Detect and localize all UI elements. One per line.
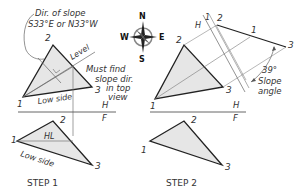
step2-front-triangle [150, 121, 222, 165]
step1-front-label-3: 3 [95, 161, 101, 171]
step2-top-triangle [155, 45, 223, 99]
step2-title: STEP 2 [166, 178, 197, 188]
step1-fold-f: F [102, 113, 107, 123]
descriptive-geometry-diagram: 2 1 3 Low side Level Dir. of slope S33°E… [0, 0, 301, 189]
slope-angle-label-2: angle [258, 86, 282, 96]
step2-front-label-2: 2 [191, 115, 197, 125]
slope-angle-value: 39° [262, 65, 277, 75]
arc-arrow-top [272, 46, 276, 51]
compass-rose: N S W E [120, 12, 164, 64]
step1-group: 2 1 3 Low side Level Dir. of slope S33°E… [11, 8, 134, 188]
note-direction-line2: S33°E or N33°W [28, 19, 98, 29]
step1-fold-h: H [102, 100, 109, 110]
compass-n-label: N [139, 12, 146, 21]
hl-label: HL [44, 132, 54, 141]
step2-fold-f: F [233, 113, 238, 123]
note-direction-line1: Dir. of slope [35, 8, 86, 18]
step2-top-label-2: 2 [176, 35, 182, 45]
low-side-bottom-label: Low side [19, 149, 55, 168]
step1-top-label-2: 2 [45, 33, 51, 43]
step1-title: STEP 1 [27, 178, 58, 188]
aux-fold-1: 1 [205, 13, 210, 22]
edge-label-2: 2 [217, 13, 223, 23]
step2-top-label-1: 1 [150, 101, 156, 111]
step1-front-label-2: 2 [60, 115, 66, 125]
edge-label-3: 3 [288, 40, 294, 50]
note-must-line4: view [108, 92, 128, 102]
level-label: Level [68, 42, 91, 61]
aux-fold-h: H [195, 21, 201, 30]
step1-top-label-3: 3 [95, 85, 101, 95]
note-must-line1: Must find [86, 64, 126, 74]
step1-front-label-1: 1 [11, 135, 17, 145]
compass-e-label: E [159, 33, 164, 42]
aux-fold-line-2 [209, 14, 249, 88]
step2-fold-h: H [233, 100, 240, 110]
step1-top-label-1: 1 [17, 99, 23, 109]
compass-s-label: S [139, 55, 145, 64]
slope-angle-label-1: Slope [258, 76, 282, 86]
step2-front-label-1: 1 [141, 145, 147, 155]
step2-top-label-3: 3 [226, 85, 232, 95]
step2-front-label-3: 3 [225, 162, 231, 172]
edge-label-1: 1 [251, 25, 257, 35]
compass-w-label: W [120, 33, 129, 42]
